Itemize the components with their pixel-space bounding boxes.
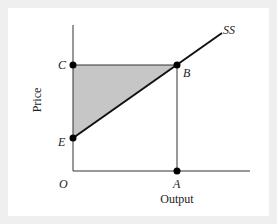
label-a: A [172,177,181,191]
point-e [70,135,77,142]
point-a [174,168,181,175]
x-axis-label: Output [160,192,194,206]
point-c [70,62,77,69]
point-b [174,62,181,69]
label-b: B [183,66,191,80]
label-c: C [58,58,67,72]
y-axis-label: Price [30,88,44,113]
label-e: E [57,135,66,149]
label-ss: SS [223,23,235,37]
supply-diagram: C B E A O SS Output Price [0,0,277,224]
label-origin: O [59,177,68,191]
